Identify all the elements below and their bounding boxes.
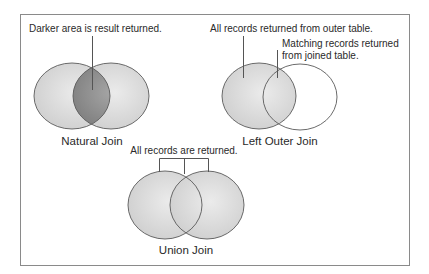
natural-join-title: Natural Join	[61, 135, 122, 147]
left-outer-join-matching-note-line2: from joined table.	[282, 50, 359, 61]
natural-join-diagram: Darker area is result returned. Natural …	[29, 23, 162, 147]
left-outer-join-outer-note: All records returned from outer table.	[210, 23, 373, 34]
union-join-diagram: All records are returned. Union Join	[128, 145, 244, 256]
union-join-note: All records are returned.	[130, 145, 237, 156]
left-outer-join-diagram: All records returned from outer table. M…	[210, 23, 399, 147]
join-types-diagram: Darker area is result returned. Natural …	[0, 0, 429, 274]
union-join-title: Union Join	[159, 244, 213, 256]
natural-join-note: Darker area is result returned.	[29, 23, 162, 34]
left-outer-join-title: Left Outer Join	[242, 135, 317, 147]
left-outer-join-matching-note-line1: Matching records returned	[282, 38, 399, 49]
left-outer-join-left-circle	[222, 63, 296, 129]
